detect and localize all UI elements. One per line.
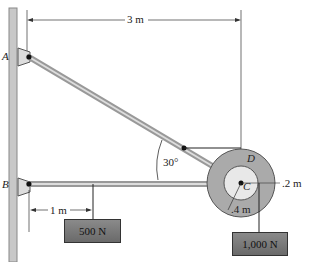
label-A: A bbox=[2, 50, 9, 62]
load-1000: 1,000 N bbox=[232, 232, 288, 256]
wall bbox=[9, 8, 17, 262]
label-D: D bbox=[247, 152, 255, 164]
dim-span: 3 m bbox=[127, 13, 144, 25]
dim-outer-radius: .2 m bbox=[282, 177, 302, 189]
dim-offset: 1 m bbox=[50, 204, 67, 216]
load-500: 500 N bbox=[64, 219, 121, 243]
label-B: B bbox=[2, 178, 9, 190]
diagram-drawing bbox=[0, 0, 309, 262]
angle-label: 30° bbox=[163, 156, 178, 168]
label-C: C bbox=[243, 180, 250, 192]
dim-inner-radius: .4 m bbox=[231, 203, 251, 215]
